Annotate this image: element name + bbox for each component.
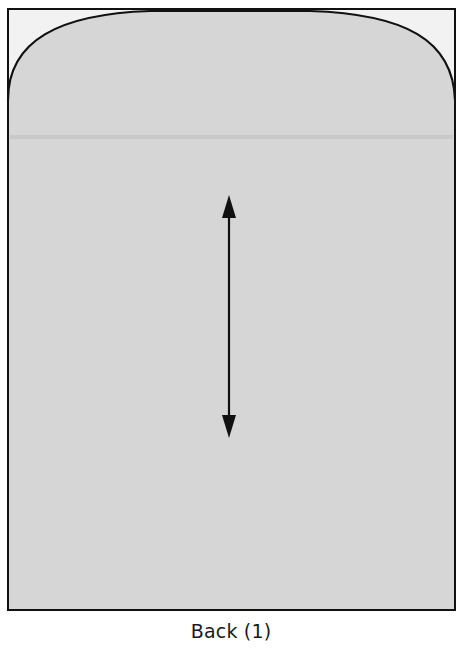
fold-line — [10, 135, 453, 139]
pattern-piece — [8, 11, 455, 610]
pattern-diagram — [0, 0, 462, 651]
diagram-caption: Back (1) — [0, 620, 462, 642]
